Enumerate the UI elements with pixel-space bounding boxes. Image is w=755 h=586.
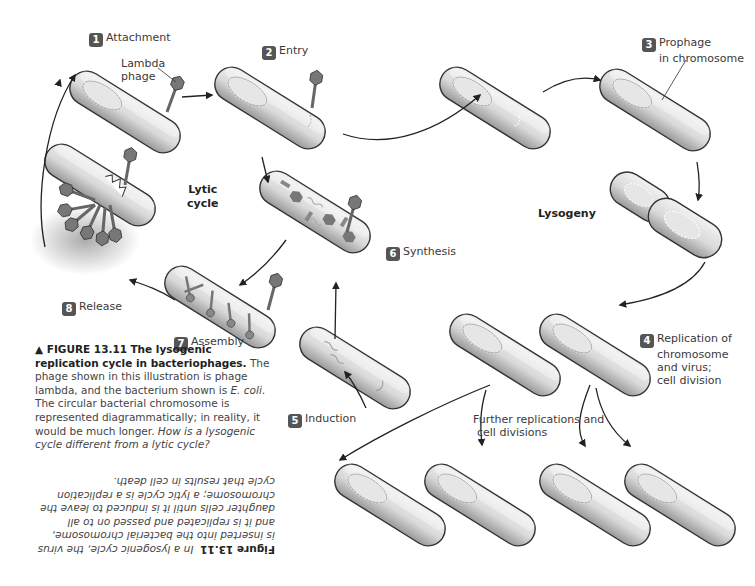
step-3-label: 3Prophage in chromosome <box>642 36 744 65</box>
phage-entry <box>306 70 323 109</box>
lytic-cycle-label: Lytic cycle <box>187 183 218 211</box>
step-6-badge: 6 <box>386 247 400 261</box>
step-4-badge: 4 <box>640 334 654 348</box>
figure-label: ▲ FIGURE 13.11 <box>35 343 127 355</box>
step-6-label: 6Synthesis <box>386 245 456 261</box>
step-5-badge: 5 <box>288 414 302 428</box>
step-2-badge: 2 <box>262 46 276 60</box>
prophage-pointer-line <box>662 60 686 100</box>
step-8-badge: 8 <box>62 302 76 316</box>
step-1-badge: 1 <box>89 33 103 47</box>
cell-integration <box>433 61 556 156</box>
lambda-phage-label: Lambda phage <box>121 57 165 83</box>
cell-prophage <box>593 63 716 158</box>
phage-assembly <box>262 272 283 312</box>
answer-label: Figure 13.11 <box>200 544 275 556</box>
cell-dividing <box>604 166 729 265</box>
figure-caption: ▲ FIGURE 13.11 The lysogenic replication… <box>35 343 275 452</box>
upside-down-answer: Figure 13.11 In a lysogenic cycle, the v… <box>30 475 275 556</box>
further-replications-label: Further replications and cell divisions <box>473 413 604 439</box>
cell-release <box>30 138 162 275</box>
step-1-label: 1Attachment <box>89 31 171 47</box>
step-8-label: 8Release <box>62 300 122 316</box>
step-3-badge: 3 <box>642 38 656 52</box>
step-5-label: 5Induction <box>288 412 356 428</box>
cell-synthesis <box>253 165 376 260</box>
cell-induction <box>293 321 416 416</box>
step-2-label: 2Entry <box>262 44 308 60</box>
lysogeny-label: Lysogeny <box>538 207 596 221</box>
step-4-label: 4Replication of chromosome and virus; ce… <box>640 332 732 387</box>
